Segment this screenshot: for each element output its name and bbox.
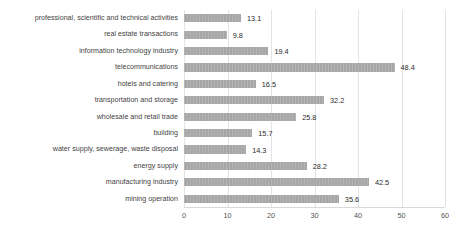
category-label: transportation and storage [0,92,178,108]
x-tick-label: 30 [310,211,318,220]
x-axis-ticks: 0102030405060 [0,211,473,227]
bar-value-label: 15.7 [252,129,272,138]
bar[interactable]: 32.2 [184,96,324,104]
bar-value-label: 42.5 [369,178,389,187]
x-tick-label: 60 [441,211,449,220]
bar[interactable]: 48.4 [184,63,395,71]
bar-value-label: 32.2 [324,96,344,105]
x-tick-label: 10 [223,211,231,220]
bar[interactable]: 14.3 [184,145,246,153]
category-label: water supply, sewerage, waste disposal [0,141,178,157]
bar-fill [184,162,307,170]
bar[interactable]: 35.6 [184,195,339,203]
x-axis-line [184,207,445,208]
bar-value-label: 14.3 [246,145,266,154]
bar-value-label: 25.8 [296,112,316,121]
bar-value-label: 19.4 [268,47,288,56]
bar-fill [184,129,252,137]
bar-row[interactable]: wholesale and retail trade25.8 [0,109,473,125]
bar[interactable]: 16.5 [184,80,256,88]
category-label: information technology industry [0,43,178,59]
bar-fill [184,80,256,88]
bar-row[interactable]: transportation and storage32.2 [0,92,473,108]
bar-row[interactable]: building15.7 [0,125,473,141]
category-label: professional, scientific and technical a… [0,10,178,26]
category-label: wholesale and retail trade [0,109,178,125]
bar-fill [184,178,369,186]
x-tick-label: 50 [397,211,405,220]
bar-fill [184,47,268,55]
bar[interactable]: 13.1 [184,14,241,22]
category-label: energy supply [0,158,178,174]
category-label: building [0,125,178,141]
bar[interactable]: 19.4 [184,47,268,55]
bar-value-label: 13.1 [241,14,261,23]
bar-row[interactable]: telecommunications48.4 [0,59,473,75]
bar-value-label: 9.8 [227,30,243,39]
bar-fill [184,96,324,104]
bar-row[interactable]: real estate transactions9.8 [0,26,473,42]
bar[interactable]: 15.7 [184,129,252,137]
category-label: telecommunications [0,59,178,75]
bar-value-label: 28.2 [307,161,327,170]
bar-value-label: 35.6 [339,194,359,203]
bar-fill [184,14,241,22]
bar-fill [184,31,227,39]
bar[interactable]: 25.8 [184,113,296,121]
bar-row[interactable]: hotels and catering16.5 [0,76,473,92]
bar-row[interactable]: manufacturing industry42.5 [0,174,473,190]
bar[interactable]: 28.2 [184,162,307,170]
category-label: mining operation [0,191,178,207]
x-tick-label: 40 [354,211,362,220]
bar-fill [184,145,246,153]
bar[interactable]: 9.8 [184,31,227,39]
category-label: real estate transactions [0,26,178,42]
category-label: hotels and catering [0,76,178,92]
bar-rows: professional, scientific and technical a… [0,10,473,207]
bar-chart: professional, scientific and technical a… [0,0,473,246]
bar-fill [184,195,339,203]
bar-row[interactable]: information technology industry19.4 [0,43,473,59]
bar-row[interactable]: mining operation35.6 [0,191,473,207]
bar-row[interactable]: water supply, sewerage, waste disposal14… [0,141,473,157]
x-tick-label: 20 [267,211,275,220]
x-tick-label: 0 [182,211,186,220]
bar-row[interactable]: professional, scientific and technical a… [0,10,473,26]
bar-fill [184,113,296,121]
bar-row[interactable]: energy supply28.2 [0,158,473,174]
bar-fill [184,63,395,71]
category-label: manufacturing industry [0,174,178,190]
bar-value-label: 48.4 [395,63,415,72]
bar-value-label: 16.5 [256,79,276,88]
bar[interactable]: 42.5 [184,178,369,186]
